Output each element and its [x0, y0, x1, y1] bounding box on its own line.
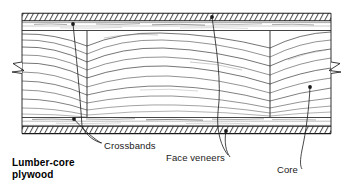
- callout-label-core: Core: [277, 164, 298, 175]
- callout-label-crossbands: Crossbands: [104, 140, 156, 151]
- leader-dot-face-veneer-top: [210, 15, 214, 19]
- figure-root: Crossbands Face veneers Core Lumber-core…: [0, 0, 353, 190]
- panel-body: [22, 13, 331, 134]
- leader-dot-core: [308, 85, 312, 89]
- callout-label-face-veneers: Face veneers: [166, 152, 225, 163]
- figure-title: Lumber-core plywood: [12, 157, 75, 180]
- leader-dot-crossband-top: [71, 22, 75, 26]
- leader-dot-crossband-bottom: [72, 117, 76, 121]
- leader-dot-face-veneer-bottom: [224, 129, 228, 133]
- face-veneer-top-band: [22, 13, 331, 21]
- face-veneer-bottom-band: [22, 126, 331, 133]
